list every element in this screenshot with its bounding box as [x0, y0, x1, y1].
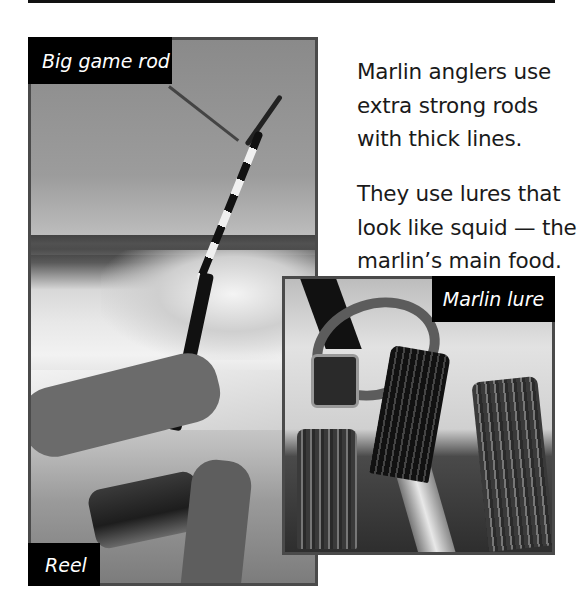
- text-line: marlin’s main food.: [357, 244, 577, 278]
- text-line: Marlin anglers use: [357, 55, 551, 89]
- top-rule: [28, 0, 555, 3]
- text-line: with thick lines.: [357, 122, 551, 156]
- body-paragraph-lures: They use lures that look like squid — th…: [357, 177, 577, 278]
- label-pointer-line: [168, 85, 239, 142]
- rod-tip: [244, 94, 283, 146]
- text-line: They use lures that: [357, 177, 577, 211]
- caption-text: Reel: [45, 554, 87, 576]
- caption-text: Big game rod: [42, 50, 170, 72]
- lure-skirt-right: [471, 376, 554, 552]
- text-line: extra strong rods: [357, 89, 551, 123]
- big-game-rod-caption: Big game rod: [28, 37, 172, 84]
- text-line: look like squid — the: [357, 211, 577, 245]
- angler-left-arm: [28, 347, 226, 463]
- big-game-rod-photo: [28, 37, 318, 586]
- marlin-lure-caption: Marlin lure: [432, 276, 555, 322]
- caption-text: Marlin lure: [443, 288, 544, 310]
- lure-head: [311, 354, 359, 408]
- lure-skirt-left: [297, 429, 357, 549]
- body-paragraph-rods: Marlin anglers use extra strong rods wit…: [357, 55, 551, 156]
- reel-caption: Reel: [28, 543, 100, 586]
